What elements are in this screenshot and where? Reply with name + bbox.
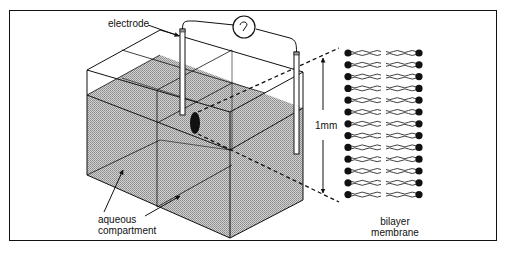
electrode-label: electrode <box>108 18 149 29</box>
lipid-pair <box>344 144 422 151</box>
lipid-pair <box>344 179 422 186</box>
lipid-pair <box>344 61 422 68</box>
membrane-aperture <box>190 112 200 134</box>
lipid-pair <box>344 132 422 139</box>
lipid-pair <box>344 120 422 127</box>
meter-dial-icon <box>233 16 255 38</box>
scale-label: 1mm <box>315 120 337 131</box>
lipid-pair <box>344 156 422 163</box>
bilayer-label-line2: membrane <box>360 227 430 238</box>
left-electrode <box>180 29 185 115</box>
lipid-pair <box>344 167 422 174</box>
right-electrode <box>294 52 299 154</box>
bilayer-label-line1: bilayer <box>360 216 430 227</box>
lipid-pair <box>344 191 422 198</box>
bilayer-membrane-label: bilayer membrane <box>360 216 430 238</box>
lipid-pair <box>344 97 422 104</box>
lipid-pair <box>344 49 422 56</box>
aqueous-label-line2: compartment <box>98 225 156 236</box>
lipid-pair <box>344 85 422 92</box>
aqueous-compartment-label: aqueous compartment <box>98 214 156 236</box>
bilayer-membrane <box>344 49 422 198</box>
lipid-pair <box>344 73 422 80</box>
aqueous-label-line1: aqueous <box>98 214 156 225</box>
lipid-pair <box>344 108 422 115</box>
